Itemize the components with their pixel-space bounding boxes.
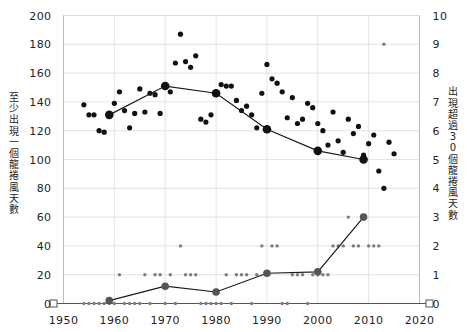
data-point-atleast1 bbox=[244, 104, 249, 109]
x-tick-label: 1960 bbox=[100, 314, 130, 327]
data-point-atleast1 bbox=[310, 105, 315, 110]
svg-text:捲: 捲 bbox=[9, 169, 19, 181]
data-point-over30 bbox=[184, 273, 187, 276]
data-point-atleast1 bbox=[234, 98, 239, 103]
data-point-atleast1 bbox=[341, 150, 346, 155]
data-point-over30 bbox=[113, 302, 116, 305]
svg-text:風: 風 bbox=[448, 187, 458, 198]
data-point-atleast1 bbox=[224, 83, 229, 88]
data-point-over30 bbox=[179, 244, 182, 247]
data-point-atleast1 bbox=[81, 102, 86, 107]
tornado-days-chart: 19501960197019801990200020102020 0204060… bbox=[0, 0, 467, 332]
chart-canvas: 19501960197019801990200020102020 0204060… bbox=[0, 0, 467, 332]
data-point-over30 bbox=[164, 302, 167, 305]
y-tick-label-left: 200 bbox=[29, 10, 51, 23]
data-point-over30 bbox=[153, 273, 156, 276]
svg-text:現: 現 bbox=[448, 98, 458, 109]
data-point-over30 bbox=[357, 244, 360, 247]
data-point-over30 bbox=[214, 302, 217, 305]
data-point-atleast1 bbox=[91, 112, 96, 117]
data-point-atleast1 bbox=[300, 117, 305, 122]
svg-text:出: 出 bbox=[9, 113, 19, 125]
data-point-atleast1 bbox=[280, 89, 285, 94]
data-point-atleast1 bbox=[254, 125, 259, 130]
svg-text:個: 個 bbox=[448, 153, 458, 165]
data-point-atleast1 bbox=[356, 124, 361, 129]
data-point-over30 bbox=[102, 302, 105, 305]
data-point-atleast1 bbox=[132, 111, 137, 116]
data-point-over30 bbox=[138, 302, 141, 305]
data-point-over30 bbox=[209, 302, 212, 305]
y-tick-label-right: 6 bbox=[433, 125, 440, 138]
y-tick-label-left: 140 bbox=[29, 96, 51, 109]
y-tick-label-left: 180 bbox=[29, 38, 51, 51]
data-point-atleast1 bbox=[376, 168, 381, 173]
y-tick-label-right: 4 bbox=[433, 182, 440, 195]
data-point-atleast1 bbox=[173, 60, 178, 65]
trend-marker-atleast1 bbox=[313, 147, 322, 156]
data-point-atleast1 bbox=[330, 109, 335, 114]
data-point-over30 bbox=[219, 302, 222, 305]
data-point-atleast1 bbox=[290, 95, 295, 100]
data-point-atleast1 bbox=[168, 89, 173, 94]
data-point-atleast1 bbox=[295, 121, 300, 126]
data-point-atleast1 bbox=[219, 82, 224, 87]
data-point-atleast1 bbox=[97, 128, 102, 133]
data-point-atleast1 bbox=[102, 130, 107, 135]
data-point-atleast1 bbox=[386, 140, 391, 145]
svg-text:一: 一 bbox=[9, 137, 19, 148]
svg-text:出: 出 bbox=[448, 85, 458, 97]
data-point-atleast1 bbox=[178, 32, 183, 37]
data-point-over30 bbox=[291, 273, 294, 276]
data-point-over30 bbox=[255, 273, 258, 276]
y-tick-label-left: 40 bbox=[37, 240, 52, 253]
data-point-over30 bbox=[189, 273, 192, 276]
data-point-atleast1 bbox=[208, 112, 213, 117]
y-tick-label-left: 60 bbox=[37, 211, 52, 224]
x-tick-label: 1970 bbox=[150, 314, 180, 327]
svg-text:風: 風 bbox=[9, 182, 19, 193]
data-point-atleast1 bbox=[320, 128, 325, 133]
svg-text:數: 數 bbox=[448, 209, 458, 221]
svg-text:0: 0 bbox=[450, 142, 456, 153]
data-point-over30 bbox=[286, 302, 289, 305]
data-point-over30 bbox=[123, 302, 126, 305]
data-point-atleast1 bbox=[346, 117, 351, 122]
y-tick-label-left: 160 bbox=[29, 67, 51, 80]
data-point-over30 bbox=[148, 302, 151, 305]
data-point-atleast1 bbox=[137, 86, 142, 91]
chart-background bbox=[0, 0, 467, 332]
svg-text:龍: 龍 bbox=[448, 164, 458, 176]
data-point-atleast1 bbox=[188, 65, 193, 70]
data-point-over30 bbox=[326, 273, 329, 276]
data-point-atleast1 bbox=[371, 132, 376, 137]
trend-marker-atleast1 bbox=[161, 82, 170, 91]
x-tick-label: 1990 bbox=[252, 314, 282, 327]
data-point-over30 bbox=[250, 302, 253, 305]
data-point-over30 bbox=[199, 302, 202, 305]
data-point-atleast1 bbox=[127, 125, 132, 130]
y-tick-label-left: 100 bbox=[29, 154, 51, 167]
data-point-atleast1 bbox=[198, 117, 203, 122]
data-point-over30 bbox=[311, 273, 314, 276]
y-tick-label-left: 0 bbox=[44, 298, 51, 311]
data-point-over30 bbox=[367, 244, 370, 247]
y-axis-title-right: 出現超過30個龍捲風天數 bbox=[448, 85, 458, 220]
data-point-atleast1 bbox=[275, 81, 280, 86]
data-point-atleast1 bbox=[117, 89, 122, 94]
svg-text:少: 少 bbox=[9, 103, 19, 114]
data-point-over30 bbox=[158, 273, 161, 276]
trend-marker-over30 bbox=[161, 282, 169, 290]
data-point-atleast1 bbox=[351, 131, 356, 136]
data-point-atleast1 bbox=[259, 91, 264, 96]
data-point-atleast1 bbox=[381, 186, 386, 191]
data-point-over30 bbox=[118, 273, 121, 276]
data-point-over30 bbox=[245, 273, 248, 276]
svg-text:過: 過 bbox=[448, 120, 458, 131]
data-point-over30 bbox=[97, 302, 100, 305]
trend-marker-atleast1 bbox=[263, 125, 272, 134]
trend-marker-atleast1 bbox=[105, 111, 114, 120]
y-axis-title-left: 至少出現一個龍捲風天數 bbox=[9, 92, 19, 215]
data-point-over30 bbox=[270, 244, 273, 247]
y-tick-label-left: 80 bbox=[37, 182, 52, 195]
